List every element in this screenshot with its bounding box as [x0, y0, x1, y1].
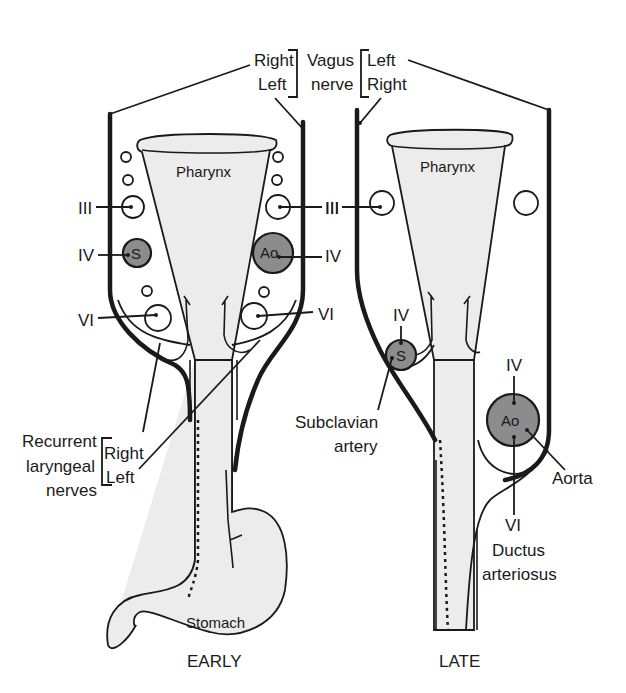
- arch-label-vi-right: VI: [318, 305, 334, 324]
- pharynx-label-late: Pharynx: [420, 158, 476, 175]
- svg-text:Ao: Ao: [501, 412, 519, 429]
- pharynx-label-early: Pharynx: [176, 163, 232, 180]
- aorta-arch-label: IV: [506, 356, 523, 375]
- svg-text:S: S: [396, 347, 406, 364]
- stomach-label: Stomach: [186, 614, 245, 631]
- late-panel: Pharynx III S IV Subclavian artery Ao IV…: [295, 110, 593, 671]
- svg-text:Ao: Ao: [260, 244, 278, 261]
- early-panel: Pharynx S Ao III IV VI III IV: [22, 114, 342, 671]
- recurrent-label: Recurrent: [22, 432, 97, 451]
- nerve-label: nerve: [311, 75, 354, 94]
- ductus-arch-label: VI: [505, 516, 521, 535]
- subclavian-arch-label: IV: [393, 306, 410, 325]
- ductus-label: Ductus: [492, 541, 545, 560]
- aorta-label: Aorta: [552, 469, 593, 488]
- svg-text:S: S: [131, 245, 141, 262]
- recurrent-left-label: Left: [106, 468, 135, 487]
- aortic-arch-diagram: Right Left Vagus nerve Left Right Pharyn…: [0, 0, 626, 693]
- vagus-left-label-right: Left: [367, 51, 396, 70]
- arch-iii-late-left: [370, 191, 394, 215]
- recurrent-right-label: Right: [104, 444, 144, 463]
- arch-label-iv-right: IV: [325, 247, 342, 266]
- artery-label: artery: [334, 437, 378, 456]
- laryngeal-label: laryngeal: [26, 457, 95, 476]
- early-caption: EARLY: [187, 652, 242, 671]
- subclavian-label: Subclavian: [295, 413, 378, 432]
- vagus-right-label-right: Right: [367, 75, 407, 94]
- arch-label-iv-left: IV: [78, 246, 95, 265]
- arch-iii-late-right: [514, 191, 538, 215]
- late-caption: LATE: [439, 652, 480, 671]
- arch-label-iii-late: III: [325, 199, 339, 218]
- arteriosus-label: arteriosus: [482, 565, 557, 584]
- arch-vi-left: [145, 305, 171, 331]
- arch-label-iii-left: III: [78, 199, 92, 218]
- vagus-nerve-label-group: Right Left Vagus nerve Left Right: [108, 50, 551, 131]
- vagus-label: Vagus: [307, 51, 354, 70]
- arch-label-vi-left: VI: [78, 311, 94, 330]
- vagus-right-label-left: Right: [254, 51, 294, 70]
- nerves-label: nerves: [46, 481, 97, 500]
- vagus-left-label-left: Left: [258, 75, 287, 94]
